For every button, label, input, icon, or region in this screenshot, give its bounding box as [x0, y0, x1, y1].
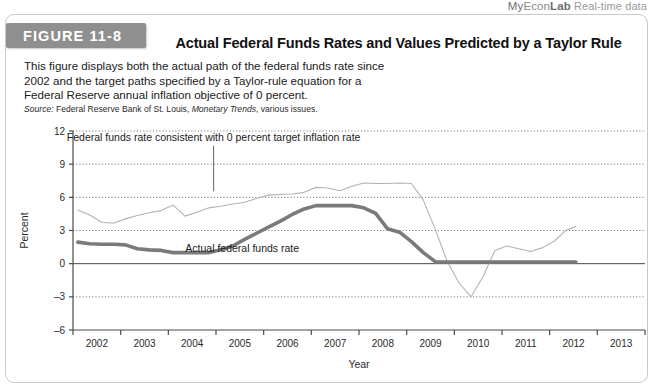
series-actual-rate [78, 206, 576, 262]
taylor-rule-line-chart: 129630–3–6200220032004200520062007200820… [0, 0, 655, 392]
x-tick-label: 2006 [276, 338, 299, 349]
figure-card: FIGURE 11-8 Actual Federal Funds Rates a… [5, 14, 648, 383]
x-tick-label: 2002 [86, 338, 109, 349]
y-tick-label: 9 [59, 159, 65, 170]
y-tick-label: 12 [54, 126, 66, 137]
x-tick-label: 2012 [562, 338, 585, 349]
y-axis-title: Percent [18, 212, 30, 248]
figure-page: MyEconLab Real-time data FIGURE 11-8 Act… [0, 0, 655, 392]
x-tick-label: 2009 [419, 338, 442, 349]
y-tick-label: –3 [54, 291, 66, 302]
y-tick-label: 3 [59, 225, 65, 236]
taylor-rule-annotation: Federal funds rate consistent with 0 per… [67, 131, 361, 143]
x-tick-label: 2013 [610, 338, 633, 349]
series-taylor-rule [78, 183, 576, 297]
x-tick-label: 2004 [181, 338, 204, 349]
x-tick-label: 2007 [324, 338, 347, 349]
x-axis-title: Year [348, 358, 370, 370]
x-tick-label: 2003 [133, 338, 156, 349]
y-tick-label: 0 [59, 258, 65, 269]
actual-rate-annotation: Actual federal funds rate [185, 242, 299, 254]
x-tick-label: 2010 [467, 338, 490, 349]
x-tick-label: 2008 [372, 338, 395, 349]
x-tick-label: 2005 [229, 338, 252, 349]
x-tick-label: 2011 [515, 338, 537, 349]
y-tick-label: –6 [54, 325, 66, 336]
y-tick-label: 6 [59, 192, 65, 203]
chart-container: 129630–3–6200220032004200520062007200820… [0, 0, 655, 392]
